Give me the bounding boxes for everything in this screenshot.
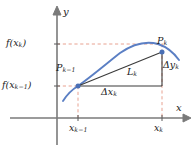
y-tick-label-fxk-minus-1: f(xk−1) (2, 80, 31, 91)
delta-y-label: Δyk (163, 60, 179, 71)
y-tick-fxk-main: f(x (6, 37, 19, 48)
delta-y-label-sub: k (175, 63, 179, 70)
chord-segment (78, 52, 162, 86)
tick-marks (54, 44, 162, 121)
x-axis-label: x (176, 103, 182, 113)
x-tick-label-xk: xk (154, 123, 163, 134)
x-tick-xk1-sub: k−1 (74, 126, 87, 133)
y-axis-label: y (63, 7, 69, 17)
axes (10, 6, 191, 145)
chord-label-sub: k (133, 70, 137, 77)
delta-x-label-sub: k (113, 90, 117, 97)
point-p-k-minus-1 (76, 84, 81, 89)
y-tick-fxk1-sub: k−1 (15, 83, 28, 90)
x-tick-xk-sub: k (159, 126, 163, 133)
y-tick-fxk1-main: f(x (2, 79, 15, 90)
arc-length-figure: y x f(xk) f(xk−1) xk−1 xk Pk−1 Pk Lk Δxk… (0, 0, 192, 148)
y-tick-fxk-tail: ) (22, 37, 26, 48)
delta-y-label-main: Δy (163, 59, 175, 70)
delta-x-label-main: Δx (101, 86, 113, 97)
point-p-k (160, 50, 165, 55)
chord-length-label: Lk (127, 67, 137, 78)
x-axis-arrow (183, 114, 191, 122)
guide-lines (57, 44, 163, 118)
y-tick-fxk1-tail: ) (28, 79, 32, 90)
point-pk-sub: k (163, 39, 167, 46)
delta-x-label: Δxk (101, 87, 117, 98)
figure-canvas (0, 0, 192, 148)
y-axis-arrow (53, 6, 61, 15)
y-tick-label-fxk: f(xk) (6, 38, 26, 49)
point-label-p-k: Pk (157, 36, 167, 47)
point-label-p-k-minus-1: Pk−1 (56, 63, 75, 74)
secant-triangle (78, 52, 162, 86)
x-tick-label-xk-minus-1: xk−1 (69, 123, 87, 134)
point-pk1-sub: k−1 (62, 66, 75, 73)
